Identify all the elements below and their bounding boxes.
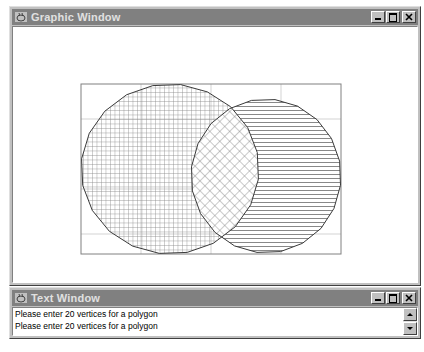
minimize-icon <box>375 18 381 20</box>
close-icon <box>403 12 415 22</box>
output-line: Please enter 20 vertices for a polygon <box>13 320 417 332</box>
vertical-scrollbar[interactable] <box>403 308 417 335</box>
output-line: Please enter 20 vertices for a polygon <box>13 308 417 320</box>
close-icon <box>403 293 415 303</box>
maximize-button[interactable] <box>386 292 400 304</box>
graphic-window-titlebar[interactable]: Graphic Window <box>12 9 418 25</box>
text-output-area[interactable]: Please enter 20 vertices for a polygon P… <box>12 307 418 336</box>
scroll-down-button[interactable] <box>403 322 417 335</box>
close-button[interactable] <box>402 11 416 23</box>
maximize-button[interactable] <box>386 11 400 23</box>
java-cup-icon <box>14 292 28 304</box>
text-window-title: Text Window <box>31 292 100 304</box>
graphic-window: Graphic Window <box>9 6 421 286</box>
graphic-canvas-area[interactable] <box>12 26 418 283</box>
arrow-down-icon <box>404 323 416 334</box>
maximize-icon <box>389 294 397 303</box>
scroll-up-button[interactable] <box>403 308 417 321</box>
graphic-canvas[interactable] <box>13 27 419 284</box>
java-cup-icon <box>14 11 28 23</box>
minimize-icon <box>375 299 381 301</box>
minimize-button[interactable] <box>371 292 385 304</box>
graphic-window-title: Graphic Window <box>31 11 120 23</box>
text-window: Text Window Please enter 20 vertices for… <box>9 287 421 339</box>
maximize-icon <box>389 13 397 22</box>
arrow-up-icon <box>404 309 416 320</box>
text-window-titlebar[interactable]: Text Window <box>12 290 418 306</box>
minimize-button[interactable] <box>371 11 385 23</box>
close-button[interactable] <box>402 292 416 304</box>
